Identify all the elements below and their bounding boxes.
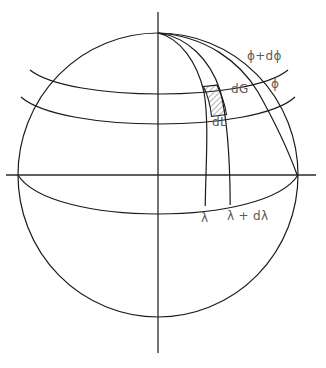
meridian-lambda [158, 33, 207, 206]
label-phi: ϕ [271, 78, 279, 91]
label-dg: dG [231, 83, 249, 96]
label-lambda: λ [201, 212, 208, 225]
sphere-diagram-figure: ϕ+dϕ ϕ dG dL λ λ + dλ [0, 0, 326, 368]
label-dl: dL [212, 116, 227, 129]
parallel-phi-plus-dphi [30, 70, 288, 94]
label-phi-plus-dphi: ϕ+dϕ [247, 50, 282, 63]
label-lambda-plus-dlambda: λ + dλ [227, 210, 268, 223]
